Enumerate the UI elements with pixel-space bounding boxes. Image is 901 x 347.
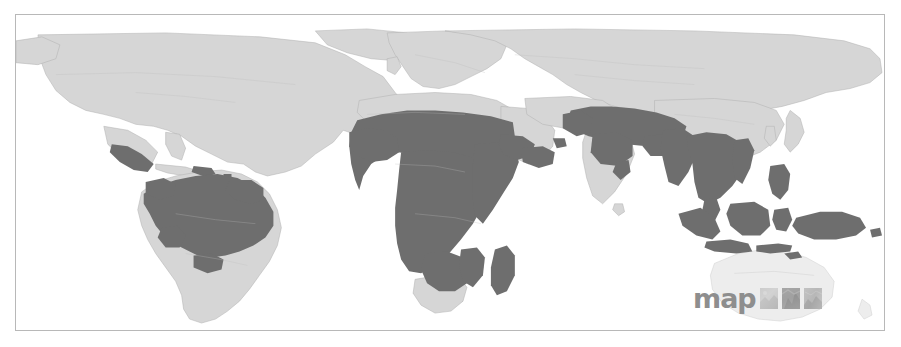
- brand-tile-1-texture: [760, 288, 778, 309]
- world-map-figure: map: [0, 0, 901, 347]
- brand-tile-3-texture: [804, 288, 822, 309]
- brand-tile-2-texture: [782, 288, 800, 309]
- brand-tile-3: [804, 288, 822, 309]
- brand-logo: map: [693, 285, 822, 312]
- brand-tile-2: [782, 288, 800, 309]
- brand-tile-1: [760, 288, 778, 309]
- brand-wordmark: map: [693, 285, 756, 312]
